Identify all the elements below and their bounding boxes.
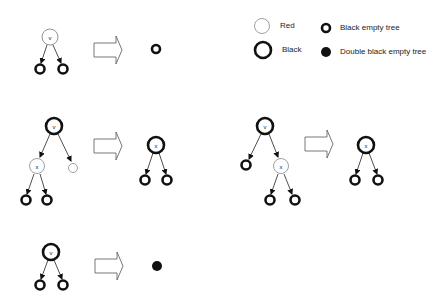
black-empty-leaf (36, 65, 45, 74)
case-2a-after-tree: x (141, 137, 172, 185)
case-1-before-tree: v (36, 29, 68, 74)
case-3-before-tree: v (36, 244, 68, 290)
black-empty-leaf (242, 161, 251, 170)
black-empty-leaf (141, 176, 150, 185)
node-label-v: v (53, 124, 56, 130)
case-3-result-double-black-empty (152, 261, 162, 271)
legend-label-black: Black (282, 45, 302, 55)
red-empty-leaf (69, 164, 78, 173)
case-2b-after-tree: x (351, 137, 383, 185)
node-label-v: v (50, 250, 53, 256)
transform-arrow-icon (94, 132, 122, 160)
case-2a-before-tree: v x (22, 118, 78, 205)
black-empty-leaf (266, 196, 275, 205)
transform-arrow-icon (305, 130, 333, 158)
black-empty-leaf (22, 196, 31, 205)
node-label-v: v (264, 124, 267, 130)
node-label-x: x (365, 143, 368, 149)
black-empty-leaf (291, 196, 300, 205)
transform-arrow-icon (94, 36, 122, 64)
legend-black-swatch (255, 42, 271, 58)
black-empty-leaf (59, 65, 68, 74)
legend-label-double-black-empty: Double black empty tree (340, 47, 426, 57)
node-label-v: v (49, 35, 52, 41)
legend-red-swatch (255, 19, 270, 34)
black-empty-leaf (351, 176, 360, 185)
black-empty-leaf (43, 196, 52, 205)
legend-double-black-swatch (321, 47, 331, 57)
black-empty-leaf (59, 281, 68, 290)
legend-label-red: Red (280, 21, 295, 31)
node-label-x: x (280, 164, 283, 170)
case-1-result-black-empty (152, 45, 160, 53)
node-label-x: x (36, 164, 39, 170)
black-empty-leaf (163, 176, 172, 185)
black-empty-leaf (36, 281, 45, 290)
transform-arrow-icon (95, 252, 123, 280)
red-black-tree-deletion-diagram: v v x x v (0, 0, 437, 305)
legend-black-empty-swatch (322, 24, 330, 32)
case-2b-before-tree: v x (242, 118, 300, 205)
node-label-x: x (155, 143, 158, 149)
black-empty-leaf (374, 176, 383, 185)
legend-label-black-empty: Black empty tree (340, 23, 400, 33)
